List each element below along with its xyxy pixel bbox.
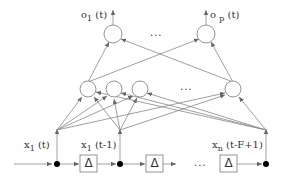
input-label-x1-t: x1 (t) — [24, 140, 50, 153]
output-label-1: o1 (t) — [81, 10, 107, 23]
output-node-1 — [104, 25, 122, 43]
junction-dot-1 — [54, 161, 60, 167]
delay-symbol-1: Δ — [80, 155, 97, 171]
delay-symbol-2: Δ — [146, 155, 163, 171]
output-node-p — [197, 25, 215, 43]
input-label-x1-t-1: x1 (t-1) — [81, 140, 116, 153]
delay-symbol-3: Δ — [220, 155, 237, 171]
hidden-node-2 — [106, 81, 122, 97]
input-label-xn-t-F-1: xn (t-F+1) — [212, 140, 263, 153]
hidden-ellipsis: ... — [180, 82, 193, 92]
delay-ellipsis: ... — [194, 158, 207, 168]
hidden-node-3 — [132, 81, 148, 97]
diagram-graphics — [0, 0, 285, 180]
output-ellipsis: ... — [150, 28, 163, 38]
junction-dot-2 — [117, 161, 123, 167]
junction-dot-3 — [263, 161, 269, 167]
hidden-node-m — [225, 81, 241, 97]
output-label-p: o p (t) — [210, 10, 239, 23]
tdnn-diagram: o1 (t) o p (t) ... ... x1 (t) x1 (t-1) x… — [0, 0, 285, 180]
hidden-node-1 — [80, 81, 96, 97]
